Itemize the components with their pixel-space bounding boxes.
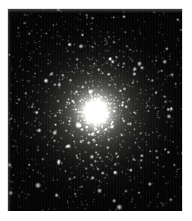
star-field-canvas xyxy=(8,9,182,211)
clipped-caption-strip xyxy=(0,0,192,8)
screenshot-root xyxy=(0,0,192,221)
astronomical-plate xyxy=(8,9,182,211)
paper-margin-bottom xyxy=(0,211,192,221)
